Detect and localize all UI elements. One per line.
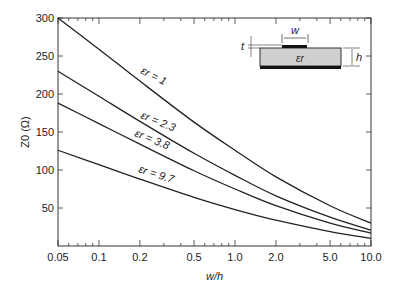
x-tick-label: 2.0 bbox=[268, 251, 283, 263]
x-tick-label: 10.0 bbox=[360, 251, 381, 263]
x-tick-label: 0.1 bbox=[91, 251, 106, 263]
inset-t-label: t bbox=[241, 40, 245, 52]
inset-w-label: w bbox=[291, 24, 300, 36]
y-tick-label: 50 bbox=[42, 202, 54, 214]
x-tick-label: 0.05 bbox=[47, 251, 68, 263]
x-tick-label: 0.5 bbox=[186, 251, 201, 263]
x-tick-label: 5.0 bbox=[322, 251, 337, 263]
x-tick-label: 0.2 bbox=[132, 251, 147, 263]
y-tick-label: 150 bbox=[36, 126, 54, 138]
inset-h-label: h bbox=[356, 51, 362, 63]
series-label: εr = 9.7 bbox=[137, 162, 176, 185]
curve-series-2 bbox=[58, 103, 371, 233]
y-tick-label: 100 bbox=[36, 164, 54, 176]
x-tick-label: 1.0 bbox=[227, 251, 242, 263]
x-axis-label: w/h bbox=[206, 270, 223, 282]
curve-series-3 bbox=[58, 150, 371, 238]
y-tick-label: 250 bbox=[36, 50, 54, 62]
inset-er-label: εr bbox=[296, 53, 304, 64]
y-tick-label: 200 bbox=[36, 88, 54, 100]
y-axis-label: Z0 (Ω) bbox=[19, 116, 31, 147]
chart: 0.050.10.20.51.02.05.010.050100150200250… bbox=[0, 0, 397, 289]
microstrip-inset-diagram: w εr t h bbox=[241, 24, 362, 69]
curve-series-1 bbox=[58, 71, 371, 230]
y-tick-label: 300 bbox=[36, 12, 54, 24]
